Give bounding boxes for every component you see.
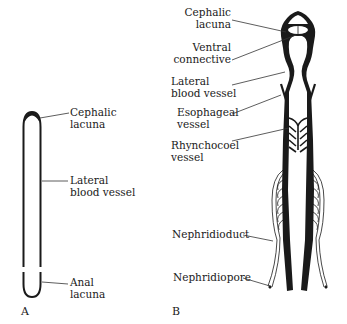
- label-b-rhynchocoel-vessel: Rhynchocoel vessel: [171, 140, 239, 163]
- label-b-esophageal-vessel: Esophageal vessel: [177, 107, 239, 130]
- label-a-lateral-blood-vessel: Lateral blood vessel: [70, 175, 135, 198]
- label-a-cephalic-lacuna-line1: Cephalic: [70, 107, 117, 119]
- label-b-lateral-blood-vessel: Lateral blood vessel: [171, 76, 236, 99]
- label-b-cephalic-lacuna-line2: lacuna: [184, 19, 231, 31]
- label-b-ventral-connective-line2: connective: [173, 54, 231, 66]
- label-a-anal-lacuna-line1: Anal: [70, 277, 105, 289]
- panel-a-drawing: [24, 112, 70, 297]
- label-a-anal-lacuna-line2: lacuna: [70, 289, 105, 301]
- label-b-lateral-blood-vessel-line2: blood vessel: [171, 88, 236, 100]
- panel-a-anal-lacuna-shape: [24, 272, 41, 297]
- panel-a-lateral-vessel-loop: [24, 112, 41, 267]
- leader-b-lateral-blood-vessel: [232, 72, 285, 85]
- label-b-esophageal-vessel-line1: Esophageal: [177, 107, 239, 119]
- panel-a-letter: A: [21, 305, 29, 318]
- label-b-rhynchocoel-vessel-line1: Rhynchocoel: [171, 140, 239, 152]
- label-b-nephridiopore-line1: Nephridiopore: [173, 272, 251, 284]
- label-a-cephalic-lacuna: Cephalic lacuna: [70, 107, 117, 130]
- panel-b-nephridium-right: [313, 170, 327, 288]
- panel-b-lateral-vessel-left: [282, 92, 293, 291]
- label-b-rhynchocoel-vessel-line2: vessel: [171, 152, 239, 164]
- panel-b-lateral-vessel-right: [301, 92, 314, 291]
- leader-a-cephalic-lacuna: [40, 113, 69, 118]
- label-b-ventral-connective: Ventral connective: [173, 42, 231, 65]
- leader-b-cephalic-lacuna: [232, 20, 286, 32]
- label-a-cephalic-lacuna-line2: lacuna: [70, 119, 117, 131]
- label-b-esophageal-vessel-line2: vessel: [177, 119, 239, 131]
- panel-b-letter: B: [172, 305, 180, 318]
- panel-b-drawing: [232, 11, 327, 291]
- label-b-cephalic-lacuna: Cephalic lacuna: [184, 7, 231, 30]
- label-a-lateral-blood-vessel-line1: Lateral: [70, 175, 135, 187]
- label-a-lateral-blood-vessel-line2: blood vessel: [70, 187, 135, 199]
- label-b-nephridiopore: Nephridiopore: [173, 272, 251, 284]
- label-a-anal-lacuna: Anal lacuna: [70, 277, 105, 300]
- panel-b-rhynchocoel-ladder-left: [289, 118, 298, 152]
- leader-b-rhynchocoel-vessel: [232, 128, 289, 141]
- label-b-lateral-blood-vessel-line1: Lateral: [171, 76, 236, 88]
- figure-canvas: Cephalic lacuna Lateral blood vessel Ana…: [0, 0, 347, 324]
- label-b-nephridioduct: Nephridioduct: [172, 229, 249, 241]
- panel-b-nephridium-left: [268, 170, 283, 288]
- label-b-nephridioduct-line1: Nephridioduct: [172, 229, 249, 241]
- label-b-ventral-connective-line1: Ventral: [173, 42, 231, 54]
- panel-b-rhynchocoel-ladder-right: [298, 118, 307, 152]
- label-b-cephalic-lacuna-line1: Cephalic: [184, 7, 231, 19]
- leader-b-esophageal-vessel: [232, 95, 281, 114]
- leader-a-anal-lacuna: [42, 282, 68, 284]
